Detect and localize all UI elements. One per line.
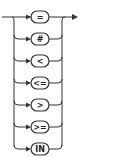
option-1: # — [14, 33, 62, 45]
option-4: > — [14, 99, 62, 111]
operator-label: > — [37, 101, 44, 110]
operator-label: IN — [35, 145, 45, 154]
operator-label: # — [37, 35, 44, 44]
option-2: < — [14, 55, 62, 67]
arrow-icon — [26, 103, 31, 108]
arrow-icon — [26, 15, 31, 20]
syntax-diagram: =#<<=>>=IN — [0, 0, 113, 158]
right-rail — [62, 17, 65, 146]
arrow-icon — [26, 81, 31, 86]
option-0: = — [26, 11, 49, 23]
operator-label: = — [37, 13, 44, 22]
operator-label: <= — [33, 79, 46, 88]
operator-label: < — [37, 57, 44, 66]
operator-label: >= — [33, 123, 46, 132]
option-5: >= — [14, 121, 62, 133]
arrow-icon — [26, 59, 31, 64]
arrow-icon — [26, 147, 31, 152]
option-3: <= — [14, 77, 62, 89]
arrow-icon — [26, 37, 31, 42]
option-6: IN — [14, 143, 62, 155]
exit-arrow-icon — [72, 14, 78, 20]
arrow-icon — [26, 125, 31, 130]
